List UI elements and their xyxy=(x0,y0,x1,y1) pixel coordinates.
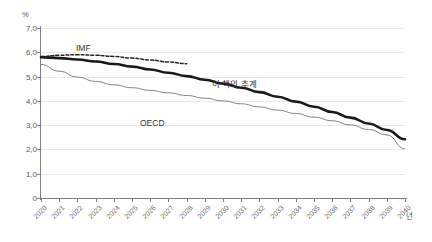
series-line xyxy=(41,57,405,139)
chart-container: % 년 7,06,05,04,03,02,01,00 2020202120222… xyxy=(0,0,432,242)
series-label-imf: IMF xyxy=(76,43,91,53)
series-label-book-estimate: 이 책의 추계 xyxy=(212,77,257,89)
series-curves xyxy=(0,0,432,242)
series-label-oecd: OECD xyxy=(140,118,165,128)
